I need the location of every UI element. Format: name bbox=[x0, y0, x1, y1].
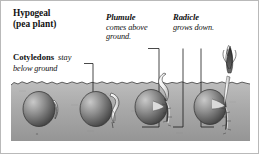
cotyledons-description-line2: below ground bbox=[13, 64, 71, 73]
plumule-label: Plumule comes above ground. bbox=[106, 13, 148, 41]
radicle-description: grows down. bbox=[173, 23, 214, 32]
title-term: Hypogeal bbox=[13, 8, 57, 19]
plumule-term: Plumule bbox=[106, 13, 148, 23]
cotyledons-term: Cotyledons bbox=[13, 52, 54, 62]
radicle-term: Radicle bbox=[173, 13, 214, 23]
soil-pebble bbox=[36, 133, 38, 135]
plumule-description-line2: ground. bbox=[106, 32, 148, 41]
title-label: Hypogeal (pea plant) bbox=[13, 8, 57, 29]
seed-body bbox=[80, 92, 112, 127]
radicle-label: Radicle grows down. bbox=[173, 13, 214, 32]
cotyledons-label: Cotyledons stay below ground bbox=[13, 46, 71, 73]
title-subtitle: (pea plant) bbox=[13, 19, 57, 30]
cotyledons-line-1: Cotyledons stay bbox=[13, 46, 71, 63]
seed-body bbox=[23, 92, 55, 127]
plumule-description: comes above bbox=[106, 23, 148, 32]
hypogeal-germination-figure: Hypogeal (pea plant) Cotyledons stay bel… bbox=[0, 0, 259, 154]
cotyledons-description: stay bbox=[58, 53, 71, 62]
